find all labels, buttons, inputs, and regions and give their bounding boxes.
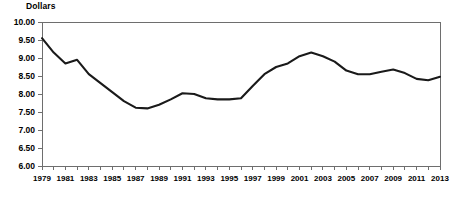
x-axis-tick-label: 1987	[127, 174, 145, 183]
y-axis-tick-label: 9.50	[18, 35, 35, 45]
y-axis-tick-label: 7.00	[18, 125, 35, 135]
plot-frame	[42, 22, 440, 166]
x-axis-tick-label: 1983	[80, 174, 98, 183]
y-axis-tick-label: 9.00	[18, 53, 35, 63]
line-chart-plot: 10.009.509.008.508.007.507.006.506.00 19…	[0, 0, 452, 206]
y-axis-tick-label: 6.00	[18, 161, 35, 171]
x-axis-tick-labels: 1979198119831985198719891991199319951997…	[33, 174, 449, 183]
x-axis-tick-label: 1995	[220, 174, 238, 183]
x-axis-tick-label: 1989	[150, 174, 168, 183]
x-axis-tick-label: 1997	[244, 174, 262, 183]
chart-container: Dollars 10.009.509.008.508.007.507.006.5…	[0, 0, 452, 206]
x-axis-tick-label: 2013	[431, 174, 449, 183]
y-axis-tick-label: 6.50	[18, 143, 35, 153]
x-axis-tick-label: 2003	[314, 174, 332, 183]
y-axis-tick-marks	[38, 22, 42, 166]
y-axis-tick-label: 10.00	[14, 17, 36, 27]
plot-frame-path	[42, 22, 440, 166]
x-axis-tick-label: 2011	[408, 174, 426, 183]
x-axis-tick-label: 2001	[291, 174, 309, 183]
x-axis-tick-label: 1999	[267, 174, 285, 183]
x-axis-tick-label: 1991	[174, 174, 192, 183]
x-axis-tick-label: 1993	[197, 174, 215, 183]
x-axis-tick-label: 1981	[57, 174, 75, 183]
x-axis-tick-marks	[42, 166, 440, 170]
x-axis-tick-label: 1979	[33, 174, 51, 183]
x-axis-tick-label: 2005	[337, 174, 355, 183]
y-axis-tick-labels: 10.009.509.008.508.007.507.006.506.00	[14, 17, 36, 171]
y-axis-tick-label: 7.50	[18, 107, 35, 117]
x-axis-tick-label: 1985	[103, 174, 121, 183]
y-axis-tick-label: 8.00	[18, 89, 35, 99]
x-axis-tick-label: 2007	[361, 174, 379, 183]
data-series-line	[42, 38, 440, 108]
y-axis-tick-label: 8.50	[18, 71, 35, 81]
x-axis-tick-label: 2009	[384, 174, 402, 183]
